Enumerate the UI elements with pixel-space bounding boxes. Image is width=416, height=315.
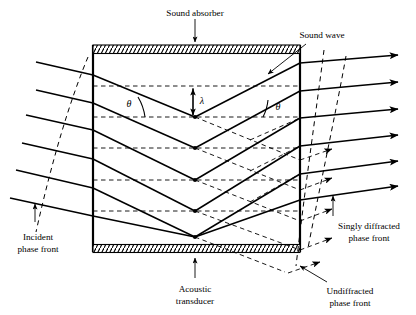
- bragg-cell-diagram: Sound absorber Sound wave θ θ λ Incident…: [0, 0, 416, 315]
- label-acoustic-transducer-line1: Acoustic: [179, 284, 212, 294]
- label-lambda: λ: [199, 95, 205, 106]
- label-singly-diffracted-line1: Singly diffracted: [338, 221, 400, 231]
- interaction-vertices: [193, 115, 197, 239]
- output-rays: [195, 55, 398, 237]
- singly-diffracted-phase-front-curve: [308, 56, 346, 248]
- sound-absorber-bar: [93, 45, 300, 54]
- label-undiffracted-line1: Undiffracted: [327, 286, 374, 296]
- label-theta-right: θ: [276, 101, 281, 112]
- label-singly-diffracted-line2: phase front: [348, 233, 390, 243]
- label-incident-phase-front-line2: phase front: [17, 244, 59, 254]
- label-incident-phase-front-line1: Incident: [23, 232, 54, 242]
- label-undiffracted-line2: phase front: [329, 298, 371, 308]
- callout-leaders: [35, 19, 333, 282]
- label-acoustic-transducer-line2: transducer: [176, 296, 214, 306]
- figure-root: Sound absorber Sound wave θ θ λ Incident…: [0, 0, 416, 315]
- label-sound-absorber: Sound absorber: [166, 8, 223, 18]
- label-sound-wave: Sound wave: [299, 30, 344, 40]
- undiffracted-leader: [300, 266, 327, 282]
- incident-rays: [10, 62, 93, 216]
- acoustic-transducer-bar: [93, 245, 300, 253]
- label-theta-left: θ: [127, 98, 132, 109]
